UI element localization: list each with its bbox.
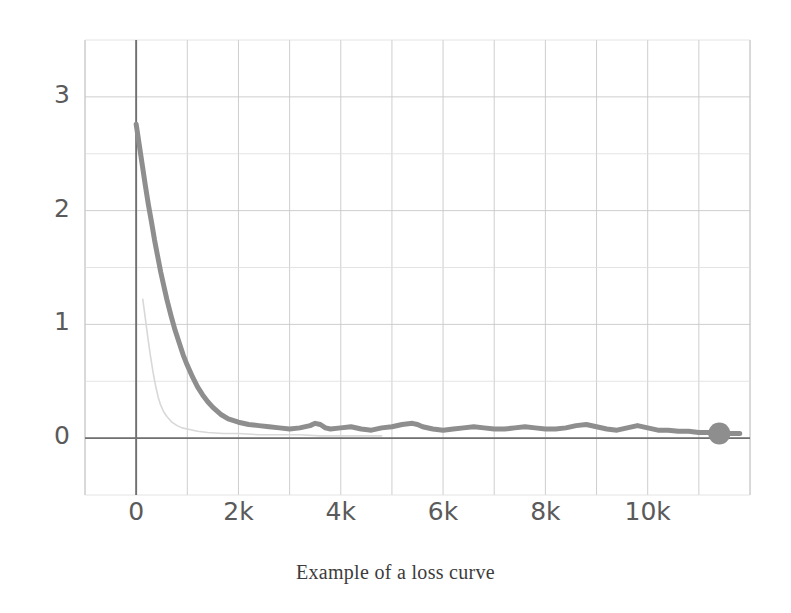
end-point-marker (708, 423, 730, 445)
x-tick-label: 6k (393, 497, 493, 526)
figure-caption: Example of a loss curve (0, 561, 791, 584)
last-point-marker (708, 423, 730, 445)
figure-container: 3210 02k4k6k8k10k Example of a loss curv… (0, 0, 791, 613)
y-tick-label: 2 (10, 194, 70, 223)
x-tick-label: 4k (291, 497, 391, 526)
y-tick-label: 3 (10, 80, 70, 109)
y-tick-label: 0 (10, 421, 70, 450)
series-line-loss (136, 124, 740, 433)
x-tick-label: 0 (86, 497, 186, 526)
y-tick-label: 1 (10, 307, 70, 336)
series-line-loss-faded (143, 299, 382, 436)
x-tick-label: 2k (188, 497, 288, 526)
data-series-layer (136, 124, 740, 436)
x-tick-label: 8k (495, 497, 595, 526)
x-tick-label: 10k (598, 497, 698, 526)
